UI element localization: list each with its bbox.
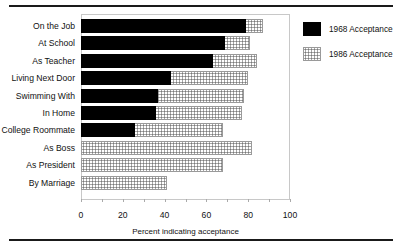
category-label: As Boss [43,143,75,153]
category-label: Swimming With [16,91,75,101]
x-tick [165,199,166,202]
bar-1986 [81,158,223,172]
legend-swatch-hatched-icon [303,47,321,61]
legend-swatch-solid-icon [303,22,321,36]
x-tick [123,199,124,202]
bar-1968 [81,123,135,137]
x-tick [248,199,249,202]
bar-1968 [81,106,156,120]
legend-label: 1986 Acceptance [329,49,393,59]
category-label: In Home [43,108,75,118]
x-axis-title: Percent indicating acceptance [81,227,290,236]
x-minor-tick [144,199,145,202]
bar-1968 [81,71,171,85]
x-tick-label: 40 [150,210,180,220]
category-label: At School [38,38,75,48]
x-tick [290,199,291,202]
bar-1968 [81,89,158,103]
bar-1968 [81,19,246,33]
bar-1986 [81,176,167,190]
x-tick-label: 100 [275,210,305,220]
category-label: As President [26,160,75,170]
bar-1968 [81,36,225,50]
x-tick-label: 20 [108,210,138,220]
x-minor-tick [227,199,228,202]
x-tick-label: 80 [233,210,263,220]
category-label: As Teacher [32,56,75,66]
x-minor-tick [102,199,103,202]
x-tick [206,199,207,202]
category-label: Living Next Door [11,73,75,83]
x-minor-tick [186,199,187,202]
category-label: By Marriage [29,178,75,188]
bar-1986 [81,141,252,155]
legend-label: 1968 Acceptance [329,24,393,34]
x-tick [81,199,82,202]
bottom-rule [9,239,393,241]
category-label: On the Job [33,21,75,31]
top-rule [9,5,393,7]
x-tick-label: 60 [191,210,221,220]
bar-1968 [81,54,213,68]
x-tick-label: 0 [66,210,96,220]
x-minor-tick [269,199,270,202]
category-label: College Roommate [1,125,75,135]
